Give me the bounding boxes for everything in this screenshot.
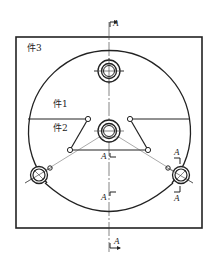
section-label-bottom: A bbox=[114, 237, 120, 246]
section-label-center-upper: A bbox=[101, 152, 107, 161]
section-label-right-upper: A bbox=[174, 148, 180, 157]
section-mark-center-upper bbox=[110, 153, 116, 157]
pin-left-lower bbox=[67, 147, 72, 152]
section-mark-right-upper bbox=[174, 158, 180, 164]
section-mark-right-lower bbox=[174, 186, 180, 192]
label-part3: 件3 bbox=[27, 44, 42, 53]
pin-right-lower bbox=[145, 147, 150, 152]
label-part2: 件2 bbox=[53, 124, 68, 133]
central-hub bbox=[94, 120, 124, 142]
section-label-top: A bbox=[113, 19, 119, 28]
top-hub bbox=[94, 58, 124, 84]
section-label-right-lower: A bbox=[174, 194, 180, 203]
section-label-center-lower: A bbox=[101, 193, 107, 202]
pin-right-upper bbox=[127, 116, 132, 121]
left-link-upper bbox=[70, 119, 88, 150]
drawing-canvas bbox=[0, 0, 218, 263]
section-mark-center-lower bbox=[110, 192, 116, 196]
label-part1: 件1 bbox=[53, 100, 68, 109]
right-link-upper bbox=[130, 119, 148, 150]
technical-drawing: 件3 件1 件2 A A A A A A bbox=[0, 0, 218, 263]
section-arrow-bottom bbox=[117, 246, 121, 250]
pin-left-upper bbox=[85, 116, 90, 121]
